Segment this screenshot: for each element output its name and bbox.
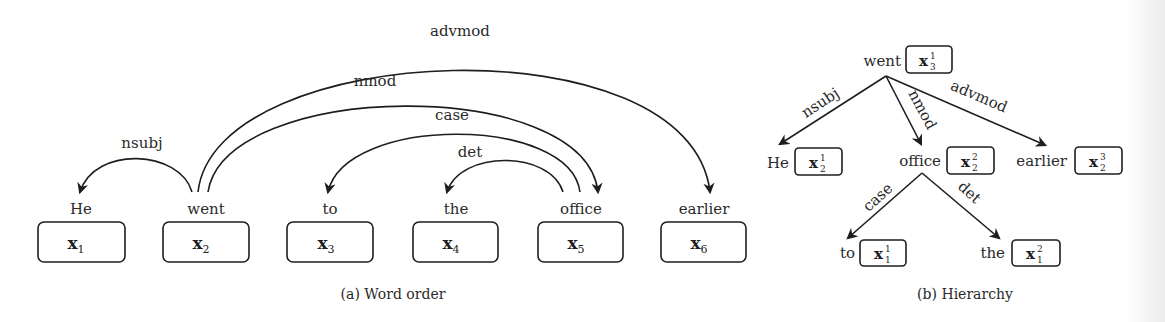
node-office: office x 2 2 bbox=[899, 147, 994, 174]
subscript: 4 bbox=[453, 243, 460, 256]
token-word: went bbox=[187, 200, 224, 218]
arc-label: advmod bbox=[430, 22, 490, 40]
node-he: He x 1 2 bbox=[767, 148, 842, 175]
vector-symbol: x bbox=[1026, 245, 1036, 263]
token-1: He x1 bbox=[38, 200, 125, 262]
superscript: 2 bbox=[972, 152, 978, 162]
superscript: 2 bbox=[1037, 244, 1043, 254]
token-4: the x4 bbox=[413, 200, 498, 262]
node-box bbox=[860, 240, 906, 266]
token-word: He bbox=[70, 200, 92, 218]
superscript: 1 bbox=[930, 51, 936, 61]
subscript: 5 bbox=[578, 243, 585, 256]
token-6: earlier x6 bbox=[661, 200, 746, 262]
vector-symbol: x bbox=[961, 153, 971, 171]
svg-text:x: x bbox=[961, 153, 971, 171]
token-box bbox=[163, 222, 249, 262]
subscript: 6 bbox=[701, 243, 708, 256]
node-box bbox=[947, 147, 994, 174]
superscript: 3 bbox=[1100, 152, 1106, 162]
edge-label: case bbox=[859, 179, 896, 215]
svg-text:x: x bbox=[809, 154, 819, 172]
subscript: 2 bbox=[1100, 163, 1106, 173]
token-word: earlier bbox=[679, 200, 730, 218]
edge-label: nmod bbox=[904, 87, 940, 133]
node-the: the x 2 1 bbox=[980, 240, 1060, 266]
vector-symbol: x bbox=[874, 245, 884, 263]
subscript: 3 bbox=[930, 62, 936, 72]
node-box bbox=[1012, 240, 1060, 266]
node-box bbox=[906, 46, 952, 73]
token-word: the bbox=[444, 200, 469, 218]
arc-nsubj: nsubj bbox=[80, 134, 192, 192]
node-word: the bbox=[980, 244, 1005, 262]
arrow-icon bbox=[80, 159, 192, 192]
superscript: 1 bbox=[820, 153, 826, 163]
node-box bbox=[1075, 147, 1122, 174]
token-box bbox=[413, 222, 498, 262]
token-word: to bbox=[322, 200, 337, 218]
subscript: 2 bbox=[972, 163, 978, 173]
subscript: 2 bbox=[203, 243, 210, 256]
node-to: to x 1 1 bbox=[840, 240, 906, 266]
token-word: office bbox=[560, 200, 602, 218]
arrow-icon bbox=[198, 70, 710, 192]
node-word: office bbox=[899, 152, 941, 170]
edge-label: advmod bbox=[948, 76, 1011, 116]
arc-nmod: nmod bbox=[208, 72, 598, 192]
superscript: 1 bbox=[885, 244, 891, 254]
arrow-icon bbox=[447, 161, 563, 193]
subscript: 3 bbox=[328, 243, 335, 256]
dependency-figure: nsubj advmod nmod case det He x1 went x2 bbox=[0, 0, 1165, 322]
panel-word-order: nsubj advmod nmod case det He x1 went x2 bbox=[38, 22, 746, 302]
subscript: 2 bbox=[820, 164, 826, 174]
token-5: office x5 bbox=[538, 200, 623, 262]
arc-det: det bbox=[447, 143, 563, 192]
node-word: to bbox=[840, 244, 855, 262]
svg-text:x: x bbox=[1026, 245, 1036, 263]
arc-label: det bbox=[458, 143, 483, 161]
arc-label: nmod bbox=[354, 72, 397, 90]
svg-text:x: x bbox=[919, 52, 929, 70]
vector-symbol: x bbox=[809, 154, 819, 172]
node-earlier: earlier x 3 2 bbox=[1016, 147, 1122, 174]
subscript: 1 bbox=[885, 255, 891, 265]
arrow-icon bbox=[328, 134, 580, 192]
node-word: He bbox=[767, 154, 789, 172]
token-box bbox=[538, 222, 623, 262]
node-word: went bbox=[864, 52, 901, 70]
edge-label: det bbox=[954, 177, 984, 207]
node-box bbox=[795, 148, 842, 175]
token-2: went x2 bbox=[163, 200, 249, 262]
caption-word-order: (a) Word order bbox=[341, 286, 446, 302]
svg-text:x: x bbox=[1089, 153, 1099, 171]
edge-label: nsubj bbox=[798, 84, 842, 122]
subscript: 1 bbox=[1037, 255, 1043, 265]
arc-label: case bbox=[435, 106, 469, 124]
page-edge-shadow bbox=[1125, 0, 1165, 322]
node-word: earlier bbox=[1016, 152, 1067, 170]
token-3: to x3 bbox=[287, 200, 373, 262]
arc-label: nsubj bbox=[121, 134, 162, 152]
panel-hierarchy: nsubj nmod advmod case det went x 1 3 He… bbox=[767, 46, 1122, 302]
subscript: 1 bbox=[78, 243, 85, 256]
caption-hierarchy: (b) Hierarchy bbox=[917, 286, 1013, 302]
vector-symbol: x bbox=[919, 52, 929, 70]
token-box bbox=[661, 222, 746, 262]
node-went: went x 1 3 bbox=[864, 46, 952, 73]
svg-text:x: x bbox=[874, 245, 884, 263]
vector-symbol: x bbox=[1089, 153, 1099, 171]
token-box bbox=[38, 222, 125, 262]
token-box bbox=[287, 222, 373, 262]
